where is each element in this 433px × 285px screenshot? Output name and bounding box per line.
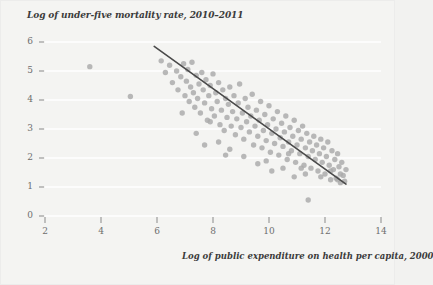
y-tick-label: 6: [19, 36, 33, 46]
y-tick-label: 5: [19, 65, 33, 75]
x-tick-label: 10: [259, 226, 279, 236]
y-tick-label: 2: [19, 152, 33, 162]
x-tick-label: 12: [315, 226, 335, 236]
y-tick-label: 1: [19, 181, 33, 191]
x-tick-label: 14: [371, 226, 391, 236]
x-tick-label: 6: [147, 226, 167, 236]
scatter-points: [87, 58, 349, 203]
x-axis-label: Log of public expenditure on health per …: [182, 251, 433, 261]
x-tick-label: 2: [35, 226, 55, 236]
y-tick-label: 3: [19, 123, 33, 133]
scatter-plot: [1, 1, 396, 285]
y-tick-label: 4: [19, 94, 33, 104]
y-axis-ticks: [39, 42, 44, 216]
y-tick-label: 0: [19, 210, 33, 220]
x-tick-label: 8: [203, 226, 223, 236]
x-tick-label: 4: [91, 226, 111, 236]
gridlines: [45, 42, 381, 216]
x-axis-ticks: [45, 217, 381, 223]
